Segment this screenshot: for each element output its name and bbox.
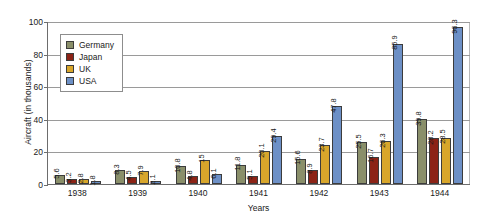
bar-value-label: 8.3: [113, 164, 121, 174]
bar-value-label: 28.2: [426, 130, 434, 145]
x-axis-tick-label: 1944: [410, 188, 470, 198]
x-axis-tick-label: 1943: [349, 188, 409, 198]
y-axis-tick-label: 100: [29, 17, 43, 27]
bar-value-label: 6.1: [209, 168, 217, 178]
bar-value-label: 3.2: [65, 173, 73, 183]
x-axis-tick-label: 1941: [228, 188, 288, 198]
bar[interactable]: 8.9: [308, 170, 318, 185]
bar-value-label: 85.9: [390, 36, 398, 51]
legend-item[interactable]: Japan: [66, 51, 114, 63]
legend-item[interactable]: Germany: [66, 39, 114, 51]
legend-swatch-icon: [66, 77, 74, 85]
bar[interactable]: 1.8: [91, 181, 101, 184]
bar[interactable]: 6.1: [212, 174, 222, 184]
legend-swatch-icon: [66, 41, 74, 49]
bar-value-label: 1.8: [89, 175, 97, 185]
legend-item-label: UK: [79, 64, 91, 74]
y-axis-tick-label: 60: [34, 82, 43, 92]
bar[interactable]: 47.8: [332, 106, 342, 184]
bar-value-label: 25.5: [354, 134, 362, 149]
legend-item[interactable]: USA: [66, 75, 114, 87]
aircraft-production-bar-chart: Aircraft (in thousands) 020406080100 5.6…: [0, 0, 479, 224]
bar-value-label: 7.9: [137, 165, 145, 175]
bar-group: 15.68.923.747.8: [289, 22, 349, 184]
bar-value-label: 5.1: [245, 169, 253, 179]
bar-group: 39.828.228.596.3: [410, 22, 470, 184]
bar-group: 25.516.726.385.9: [349, 22, 409, 184]
bar-value-label: 4.5: [125, 170, 133, 180]
bar[interactable]: 20.1: [260, 151, 270, 184]
x-axis-title: Years: [47, 203, 470, 213]
legend-item[interactable]: UK: [66, 63, 114, 75]
legend-swatch-icon: [66, 65, 74, 73]
x-axis-tick-labels: 1938193919401941194219431944: [47, 188, 470, 198]
bar[interactable]: 28.5: [441, 138, 451, 184]
x-axis-tick-label: 1938: [47, 188, 107, 198]
bar-value-label: 11.8: [233, 157, 241, 171]
bar-value-label: 2.1: [149, 174, 157, 184]
legend-item-label: Japan: [79, 52, 102, 62]
bar-value-label: 5.6: [53, 169, 61, 179]
y-axis-tick-label: 80: [34, 50, 43, 60]
y-axis-title: Aircraft (in thousands): [23, 27, 33, 177]
bar[interactable]: 2.1: [151, 181, 161, 184]
bar-value-label: 39.8: [414, 111, 422, 126]
bar[interactable]: 4.8: [188, 176, 198, 184]
bar[interactable]: 26.3: [381, 141, 391, 184]
bar-value-label: 15.6: [294, 150, 302, 165]
bar-value-label: 28.5: [438, 129, 446, 144]
bar[interactable]: 16.7: [369, 157, 379, 184]
legend-item-label: Germany: [79, 40, 114, 50]
legend-item-label: USA: [79, 76, 96, 86]
bar-group: 10.84.8156.1: [169, 22, 229, 184]
y-axis-tick-mark: [44, 185, 48, 186]
bar-value-label: 47.8: [330, 98, 338, 113]
bar[interactable]: 85.9: [393, 44, 403, 184]
bar-value-label: 4.8: [185, 170, 193, 180]
bar[interactable]: 39.8: [417, 119, 427, 184]
bar-value-label: 26.3: [378, 133, 386, 148]
bar[interactable]: 4.5: [127, 177, 137, 184]
bar-value-label: 20.1: [257, 143, 265, 158]
x-axis-tick-label: 1942: [289, 188, 349, 198]
bar-value-label: 15: [197, 154, 205, 162]
bar-value-label: 96.3: [450, 19, 458, 34]
x-axis-tick-label: 1940: [168, 188, 228, 198]
chart-legend: GermanyJapanUKUSA: [60, 34, 123, 92]
x-axis-tick-label: 1939: [107, 188, 167, 198]
bar-value-label: 23.7: [318, 137, 326, 152]
bar[interactable]: 96.3: [453, 27, 463, 184]
bar-value-label: 8.9: [306, 163, 314, 173]
y-axis-tick-label: 20: [34, 147, 43, 157]
bar-group: 11.85.120.129.4: [229, 22, 289, 184]
y-axis-tick-label: 40: [34, 115, 43, 125]
legend-swatch-icon: [66, 53, 74, 61]
bar-value-label: 29.4: [269, 128, 277, 143]
bar[interactable]: 29.4: [272, 136, 282, 184]
y-axis-tick-label: 0: [38, 180, 43, 190]
bar[interactable]: 28.2: [429, 138, 439, 184]
bar[interactable]: 23.7: [320, 145, 330, 184]
bar[interactable]: 5.1: [248, 176, 258, 184]
bar-value-label: 16.7: [366, 148, 374, 163]
bar-value-label: 10.8: [173, 158, 181, 173]
bar-value-label: 2.8: [77, 173, 85, 183]
